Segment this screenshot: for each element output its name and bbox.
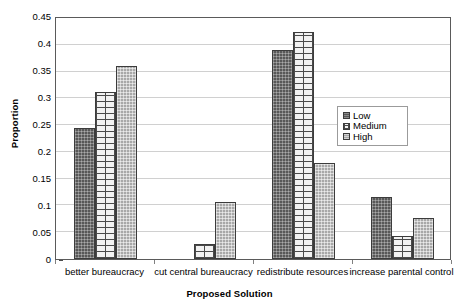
y-axis-tick-label: 0.2 xyxy=(11,147,51,157)
y-axis-tick-label: 0.25 xyxy=(11,120,51,130)
bar-low xyxy=(74,128,95,259)
y-axis-tick-label: 0.3 xyxy=(11,93,51,103)
bar-medium xyxy=(194,244,215,259)
y-axis-tick-label: 0.45 xyxy=(11,12,51,22)
bar-low xyxy=(371,197,392,259)
y-axis-tick-label: 0.35 xyxy=(11,66,51,76)
legend-item-medium[interactable]: Medium xyxy=(343,121,403,131)
bar-chart: Proportion 00.050.10.150.20.250.30.350.4… xyxy=(0,0,459,308)
legend-item-high[interactable]: High xyxy=(343,132,403,142)
y-axis-tick-label: 0.15 xyxy=(11,174,51,184)
bar-high xyxy=(314,163,335,259)
y-axis-tick-label: 0.4 xyxy=(11,39,51,49)
y-axis-tick-labels: 00.050.10.150.20.250.30.350.40.45 xyxy=(8,0,51,308)
x-axis-tick-mark xyxy=(154,260,155,264)
legend-label: High xyxy=(353,132,373,142)
legend-swatch-high-icon xyxy=(343,133,350,140)
x-axis-category-label: redistribute resources xyxy=(245,266,360,278)
bar-high xyxy=(215,202,236,259)
x-axis-category-label: increase parental control xyxy=(344,266,459,278)
bar-medium xyxy=(95,92,116,259)
x-axis-tick-mark xyxy=(451,260,452,264)
legend-item-low[interactable]: Low xyxy=(343,111,403,121)
y-axis-tick-label: 0.1 xyxy=(11,201,51,211)
legend-swatch-low-icon xyxy=(343,112,350,119)
x-axis-category-label: cut central bureaucracy xyxy=(146,266,261,278)
y-axis-tick-mark xyxy=(59,260,63,261)
x-axis-tick-mark xyxy=(352,260,353,264)
bar-low xyxy=(272,50,293,259)
legend-label: Low xyxy=(353,111,370,121)
legend-label: Medium xyxy=(353,121,387,131)
x-axis-tick-mark xyxy=(55,260,56,264)
y-axis-tick-label: 0.05 xyxy=(11,228,51,238)
bar-medium xyxy=(392,236,413,259)
x-axis-tick-mark xyxy=(253,260,254,264)
bar-high xyxy=(116,66,137,259)
y-axis-tick-label: 0 xyxy=(11,255,51,265)
x-axis-label: Proposed Solution xyxy=(0,288,459,299)
legend-swatch-medium-icon xyxy=(343,123,350,130)
bar-high xyxy=(413,218,434,259)
bar-medium xyxy=(293,32,314,259)
legend: LowMediumHigh xyxy=(337,106,408,146)
x-axis-category-label: better bureaucracy xyxy=(47,266,162,278)
